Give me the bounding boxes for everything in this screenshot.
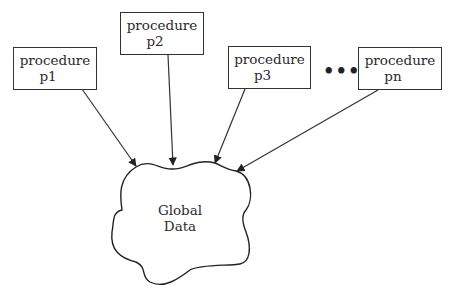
procedure-label: procedure [365, 52, 436, 68]
arrow-p2 [168, 55, 173, 165]
global-data-label: Global Data [150, 202, 210, 234]
procedure-box-pn: procedure pn [358, 47, 442, 90]
procedure-label: procedure [127, 17, 198, 33]
ellipsis: ••• [323, 60, 361, 81]
global-data-line1: Global [150, 202, 210, 218]
procedure-label: procedure [234, 51, 305, 67]
procedure-id: p2 [121, 33, 203, 49]
arrow-p1 [82, 89, 136, 166]
procedure-box-p3: procedure p3 [228, 46, 311, 89]
global-data-line2: Data [150, 218, 210, 234]
arrow-p3 [215, 89, 245, 163]
arrow-pn [237, 90, 378, 171]
connector-layer [0, 0, 453, 295]
procedure-id: pn [359, 68, 441, 84]
procedure-box-p2: procedure p2 [120, 12, 204, 55]
procedure-id: p3 [229, 67, 310, 83]
procedure-box-p1: procedure p1 [13, 47, 97, 90]
procedure-label: procedure [20, 52, 91, 68]
procedure-id: p1 [14, 68, 96, 84]
